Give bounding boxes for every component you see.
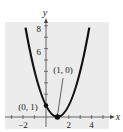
point-vertex xyxy=(55,114,61,120)
chart: −2 2 4 x 6 8 y (1, 0) (0, 1) xyxy=(0,0,123,132)
y-axis-arrow-icon xyxy=(44,18,48,23)
y-tick-label-6: 6 xyxy=(37,47,42,57)
y-intercept-annotation: (0, 1) xyxy=(18,102,38,112)
point-y-intercept xyxy=(44,103,49,108)
x-tick-label-4: 4 xyxy=(89,120,94,130)
y-tick-label-8: 8 xyxy=(37,24,42,34)
x-axis-arrow-icon xyxy=(110,115,115,119)
y-axis-label: y xyxy=(42,7,48,18)
plot-background xyxy=(5,22,109,129)
vertex-annotation: (1, 0) xyxy=(53,65,73,75)
x-tick-label-2: 2 xyxy=(67,120,72,130)
x-tick-label-neg2: −2 xyxy=(18,120,28,130)
x-axis-label: x xyxy=(115,111,121,122)
